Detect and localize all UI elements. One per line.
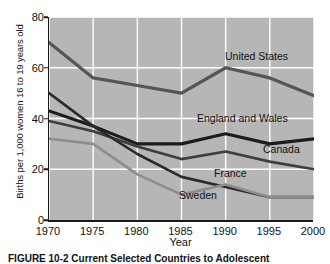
y-axis-ticks: 020406080 <box>0 17 44 220</box>
y-tick-label: 40 <box>10 113 44 125</box>
plot-area: United StatesEngland and WalesCanadaFran… <box>48 17 314 220</box>
y-tick-label: 60 <box>10 62 44 74</box>
x-axis-title: Year <box>48 236 313 248</box>
figure-caption: FIGURE 10-2 Current Selected Countries t… <box>8 253 318 264</box>
series-label: Canada <box>263 143 300 155</box>
y-tick-label: 20 <box>10 163 44 175</box>
y-tick-label: 80 <box>10 11 44 23</box>
series-label: France <box>214 167 247 179</box>
series-label: England and Wales <box>197 112 288 124</box>
series-label: Sweden <box>179 189 217 201</box>
series-label: United States <box>225 50 288 62</box>
